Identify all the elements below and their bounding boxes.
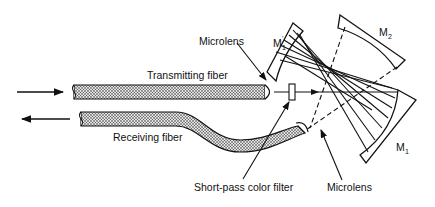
label-m1: M 1 bbox=[396, 141, 409, 155]
mirror-m1-prime bbox=[267, 23, 303, 81]
label-transmitting-fiber: Transmitting fiber bbox=[147, 69, 228, 81]
mirror-m2 bbox=[338, 15, 405, 69]
label-microlens-bottom: Microlens bbox=[327, 181, 372, 193]
svg-text:M: M bbox=[273, 37, 282, 49]
label-m2: M 2 bbox=[379, 26, 392, 40]
svg-text:1: 1 bbox=[282, 44, 286, 51]
svg-text:2: 2 bbox=[388, 33, 392, 40]
svg-text:M: M bbox=[379, 26, 388, 38]
transmitting-fiber bbox=[73, 85, 266, 99]
short-pass-color-filter bbox=[289, 84, 295, 100]
transmit-beam bbox=[274, 84, 318, 100]
label-short-pass-filter: Short-pass color filter bbox=[194, 181, 294, 193]
leader-lines bbox=[237, 43, 342, 180]
label-receiving-fiber: Receiving fiber bbox=[113, 131, 183, 143]
label-microlens-top: Microlens bbox=[199, 35, 244, 47]
svg-text:': ' bbox=[282, 35, 283, 42]
svg-text:1: 1 bbox=[405, 148, 409, 155]
svg-text:M: M bbox=[396, 141, 405, 153]
optical-diagram: Transmitting fiber Receiving fiber Micro… bbox=[0, 0, 435, 207]
microlens-transmit bbox=[265, 85, 270, 99]
